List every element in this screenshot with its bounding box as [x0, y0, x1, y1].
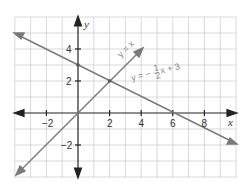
y-axis-down-arrow-icon — [75, 168, 82, 178]
x-tick-label: 8 — [202, 118, 208, 129]
y-axis-up-arrow-icon — [75, 16, 82, 26]
intersection-point — [108, 79, 112, 83]
y-axis-label: y — [83, 18, 89, 30]
x-axis-label: x — [227, 116, 233, 128]
line2-arrow-left-icon — [14, 33, 24, 39]
coordinate-plane: −2 2 4 6 8 4 2 −2 y x y = x y = − 1 2 x … — [0, 0, 250, 188]
y-tick-label: −2 — [61, 140, 73, 151]
line-y-equals-x — [16, 48, 143, 175]
equation-suffix: x + 3 — [159, 61, 181, 75]
line2-arrow-right-icon — [227, 138, 237, 144]
y-intercept-point — [76, 63, 80, 67]
y-tick-label: 4 — [66, 44, 72, 55]
x-tick-label: 6 — [170, 118, 176, 129]
y-tick-label: 2 — [66, 76, 72, 87]
x-tick-label: 4 — [139, 118, 145, 129]
x-axis-left-arrow-icon — [14, 110, 24, 117]
equation-label-line2: y = − 1 2 x + 3 — [129, 57, 182, 87]
x-tick-label: −2 — [42, 118, 54, 129]
x-tick-label: 2 — [107, 118, 113, 129]
